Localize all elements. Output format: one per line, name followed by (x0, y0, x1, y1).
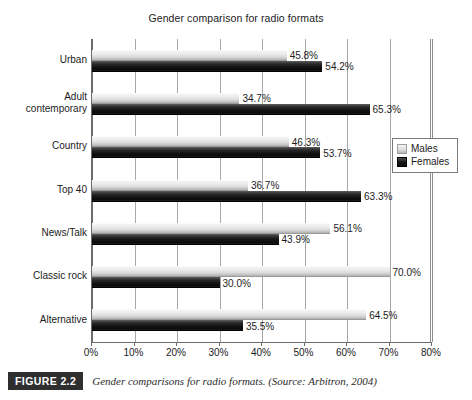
chart-title: Gender comparison for radio formats (0, 12, 472, 24)
bar-value-label: 34.7% (242, 93, 270, 104)
bar-females-adult-contemporary (92, 104, 370, 115)
bar-value-label: 53.7% (323, 148, 351, 159)
tickmark-20 (176, 342, 177, 346)
figure-container: Gender comparison for radio formats 45.8… (0, 0, 472, 400)
bar-males-top-40 (92, 180, 248, 191)
tickmark-70 (389, 342, 390, 346)
x-tick-label: 50% (284, 347, 324, 358)
category-label-alternative: Alternative (3, 314, 87, 326)
category-label-classic-rock: Classic rock (3, 270, 87, 282)
bar-value-label: 35.5% (246, 321, 274, 332)
tickmark-50 (304, 342, 305, 346)
tickmark-80 (431, 342, 432, 346)
bar-females-country (92, 147, 320, 158)
category-label-line: News/Talk (3, 227, 87, 239)
bar-value-label: 54.2% (325, 61, 353, 72)
legend-swatch-females (397, 157, 407, 167)
category-label-top-40: Top 40 (3, 184, 87, 196)
legend-label: Males (411, 142, 438, 155)
figure-number-badge: FIGURE 2.2 (8, 372, 83, 390)
bar-value-label: 36.7% (251, 180, 279, 191)
bar-value-label: 70.0% (393, 267, 421, 278)
bar-males-country (92, 136, 289, 147)
bar-females-classic-rock (92, 277, 220, 288)
category-label-urban: Urban (3, 54, 87, 66)
category-label-line: Top 40 (3, 184, 87, 196)
bar-males-alternative (92, 309, 366, 320)
x-tick-label: 70% (369, 347, 409, 358)
figure-caption-text: Gender comparisons for radio formats. (S… (92, 375, 377, 387)
category-label-line: Classic rock (3, 270, 87, 282)
bar-males-news-talk (92, 223, 330, 234)
gridline-80 (432, 39, 433, 342)
category-label-line: Urban (3, 54, 87, 66)
bar-value-label: 30.0% (223, 278, 251, 289)
bar-males-classic-rock (92, 266, 390, 277)
bar-value-label: 45.8% (290, 50, 318, 61)
tickmark-60 (346, 342, 347, 346)
legend-item-males: Males (397, 142, 453, 155)
tickmark-0 (91, 342, 92, 346)
tickmark-30 (219, 342, 220, 346)
bar-value-label: 46.3% (292, 137, 320, 148)
x-tick-label: 0% (71, 347, 111, 358)
bar-value-label: 63.3% (364, 191, 392, 202)
tickmark-10 (134, 342, 135, 346)
legend-item-females: Females (397, 155, 453, 168)
x-tick-label: 10% (114, 347, 154, 358)
bar-value-label: 64.5% (369, 310, 397, 321)
category-label-line: Adult (3, 91, 87, 103)
chart-legend: MalesFemales (392, 138, 458, 173)
x-tick-label: 40% (241, 347, 281, 358)
x-tick-label: 60% (326, 347, 366, 358)
x-tick-label: 30% (199, 347, 239, 358)
x-tick-label: 20% (156, 347, 196, 358)
legend-swatch-males (397, 144, 407, 154)
bar-value-label: 65.3% (373, 104, 401, 115)
plot-area: 45.8%54.2%34.7%65.3%46.3%53.7%36.7%63.3%… (91, 39, 431, 342)
category-label-line: Country (3, 140, 87, 152)
figure-caption: FIGURE 2.2 Gender comparisons for radio … (8, 372, 377, 390)
category-label-news-talk: News/Talk (3, 227, 87, 239)
tickmark-40 (261, 342, 262, 346)
bar-females-top-40 (92, 191, 361, 202)
x-tick-label: 80% (411, 347, 451, 358)
legend-label: Females (411, 155, 449, 168)
bar-males-urban (92, 50, 287, 61)
bar-value-label: 56.1% (333, 223, 361, 234)
category-label-line: contemporary (3, 103, 87, 115)
bar-males-adult-contemporary (92, 93, 239, 104)
category-label-adult-contemporary: Adultcontemporary (3, 91, 87, 114)
bar-value-label: 43.9% (282, 234, 310, 245)
category-label-country: Country (3, 140, 87, 152)
bar-females-urban (92, 61, 322, 72)
bar-females-alternative (92, 320, 243, 331)
bar-females-news-talk (92, 234, 279, 245)
category-label-line: Alternative (3, 314, 87, 326)
